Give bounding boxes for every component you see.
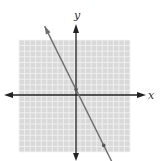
x-axis-arrow-right-icon <box>137 92 146 98</box>
data-point <box>102 144 106 148</box>
x-axis-arrow-left-icon <box>4 92 13 98</box>
plot-svg <box>0 0 160 161</box>
y-axis-label: y <box>74 10 80 21</box>
data-point <box>74 88 78 92</box>
y-axis-arrow-down-icon <box>73 153 79 161</box>
y-axis-arrow-up-icon <box>73 24 79 33</box>
coordinate-plane: y x <box>0 0 160 161</box>
grid-lines <box>19 40 130 152</box>
x-axis-label: x <box>148 90 154 101</box>
line-arrow-up-icon <box>45 26 51 34</box>
